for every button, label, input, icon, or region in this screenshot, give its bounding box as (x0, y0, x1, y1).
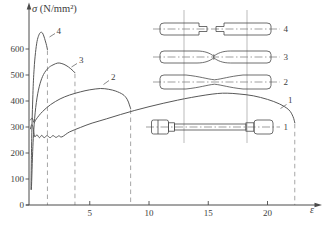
curve-label-1: 1 (288, 95, 293, 105)
x-axis-title: ε (310, 204, 314, 215)
specimen-label-4: 4 (284, 24, 289, 34)
y-tick-label-600: 600 (11, 44, 25, 54)
curve-label-4: 4 (57, 26, 62, 36)
x-tick-label-5: 5 (88, 208, 93, 218)
x-tick-label-15: 15 (204, 208, 214, 218)
curve-3-path (31, 63, 75, 189)
curve-4-path (31, 32, 47, 189)
y-tick-label-200: 200 (11, 148, 25, 158)
x-axis-arrow-icon (315, 203, 323, 208)
y-tick-label-100: 100 (11, 174, 25, 184)
curve-2-path (31, 88, 131, 122)
curve-4-leader-line (50, 34, 56, 38)
curve-label-3: 3 (79, 55, 84, 65)
y-tick-label-500: 500 (11, 70, 25, 80)
stress-strain-figure: 4321123401002003004005006005101520 σ (N/… (0, 0, 325, 226)
stress-strain-chart: 4321123401002003004005006005101520 (0, 0, 325, 226)
curve-2-leader-line (104, 81, 110, 85)
curve-label-2: 2 (111, 72, 116, 82)
specimen-label-2: 2 (284, 77, 289, 87)
sigma-units: (N/mm²) (37, 3, 77, 14)
y-axis-title: σ (N/mm²) (32, 3, 77, 14)
specimen-label-1: 1 (284, 122, 289, 132)
x-tick-label-10: 10 (145, 208, 155, 218)
curve-3-leader-line (72, 64, 78, 68)
y-tick-label-400: 400 (11, 96, 25, 106)
specimen-label-3: 3 (284, 52, 289, 62)
y-axis-arrow-icon (27, 3, 32, 10)
y-tick-label-300: 300 (11, 122, 25, 132)
x-tick-label-20: 20 (263, 208, 273, 218)
y-tick-label-0: 0 (20, 200, 25, 210)
curve-1-path (31, 93, 295, 138)
